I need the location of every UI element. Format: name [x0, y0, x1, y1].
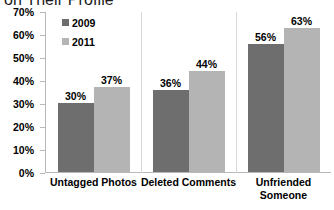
legend-item-2009: 2009: [62, 13, 95, 32]
legend-label-2009: 2009: [72, 17, 95, 29]
y-axis-tick: [40, 127, 45, 128]
bar-value-label: 56%: [255, 31, 276, 43]
bar-2011-2: [284, 28, 320, 172]
y-axis-tick-label: 60%: [13, 29, 34, 41]
bar-value-label: 44%: [196, 58, 217, 70]
y-axis-tick: [40, 58, 45, 59]
bar-value-label: 63%: [291, 15, 312, 27]
y-axis-tick: [40, 104, 45, 105]
bar-value-label: 30%: [65, 90, 86, 102]
legend-item-2011: 2011: [62, 32, 95, 51]
y-axis-tick: [40, 81, 45, 82]
y-axis-tick: [40, 12, 45, 13]
bar-2009-1: [153, 90, 189, 172]
y-axis-tick-label: 70%: [13, 6, 34, 18]
x-axis-labels: Untagged PhotosDeleted CommentsUnfriende…: [46, 176, 331, 210]
y-axis-tick-label: 40%: [13, 75, 34, 87]
x-axis-line: [45, 172, 331, 173]
y-axis-tick: [40, 35, 45, 36]
y-axis-tick: [40, 150, 45, 151]
x-axis-category-label: Untagged Photos: [50, 176, 137, 189]
x-axis-category-label: Deleted Comments: [141, 176, 236, 189]
x-axis-category-label: Unfriended Someone: [256, 176, 311, 201]
bar-chart: on Their Profile 70%60%50%40%30%20%10%0%…: [0, 0, 334, 210]
legend-label-2011: 2011: [72, 36, 95, 48]
legend-swatch-2011: [62, 38, 69, 45]
legend-swatch-2009: [62, 19, 69, 26]
group-separator: [141, 12, 142, 173]
group-separator: [236, 12, 237, 173]
bar-value-label: 37%: [101, 74, 122, 86]
y-axis-tick-label: 50%: [13, 52, 34, 64]
y-axis-tick-label: 30%: [13, 98, 34, 110]
y-axis-tick-label: 10%: [13, 144, 34, 156]
y-axis-tick-label: 0%: [19, 167, 34, 179]
bar-2009-0: [58, 103, 94, 172]
bar-2009-2: [248, 44, 284, 172]
chart-legend: 2009 2011: [62, 13, 95, 51]
bar-value-label: 36%: [160, 77, 181, 89]
y-axis-tick: [40, 173, 45, 174]
y-axis-labels: 70%60%50%40%30%20%10%0%: [0, 8, 36, 174]
bar-2011-1: [189, 71, 225, 172]
bar-2011-0: [94, 87, 130, 172]
y-axis-tick-label: 20%: [13, 121, 34, 133]
